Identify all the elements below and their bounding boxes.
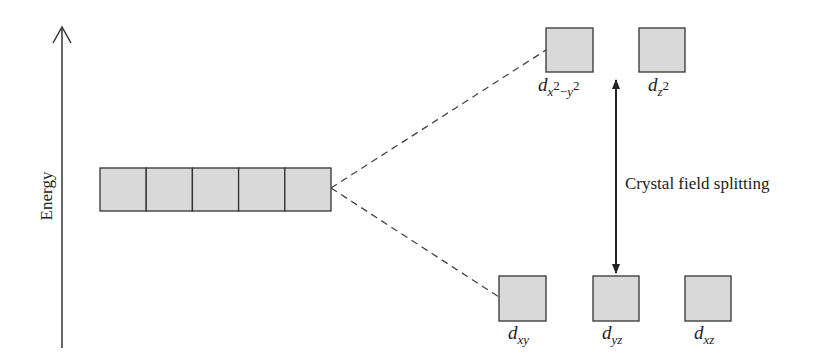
orbital-box-dz2 — [639, 28, 685, 72]
orbital-box-dyz — [593, 276, 639, 321]
degenerate-orbitals — [100, 168, 331, 211]
orbital-box-dxz — [685, 276, 731, 321]
crystal-field-splitting-label: Crystal field splitting — [625, 174, 770, 194]
label-dyz: dyz — [602, 322, 622, 344]
energy-axis-label: Energy — [37, 167, 57, 225]
upper-orbitals — [546, 28, 685, 72]
orbital-box-dx2-y2 — [546, 28, 593, 72]
label-dz2: dz2 — [648, 74, 669, 96]
orbital-box-dxy — [499, 276, 546, 321]
lower-orbitals — [499, 276, 731, 321]
splitting-connectors — [331, 50, 546, 297]
label-dxz: dxz — [694, 322, 714, 344]
label-dxy: dxy — [508, 322, 529, 344]
label-dx2-y2: dx2−y2 — [538, 74, 579, 96]
